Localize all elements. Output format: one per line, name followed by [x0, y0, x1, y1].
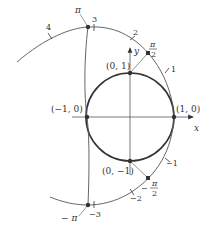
point-0-neg1 — [128, 159, 132, 163]
label-neg-pi: − π — [61, 213, 78, 223]
point-1-0 — [172, 115, 176, 119]
point-neg1-0 — [85, 115, 89, 119]
label-pi-half-num: π — [149, 40, 156, 49]
leader-pi — [80, 14, 88, 27]
label-neg1-0: (−1, 0) — [51, 104, 83, 114]
point-neg-pi — [86, 203, 90, 207]
x-axis-label: x — [194, 123, 199, 133]
point-pi-half — [146, 51, 150, 55]
tick-label-4: 4 — [46, 23, 51, 32]
point-0-1 — [128, 71, 132, 75]
wrapping-function-diagram: x y (1, 0) (0, 1) (−1, 0) (0, −1) 1 2 3 … — [0, 0, 210, 235]
label-neg-pi-half-den: 2 — [152, 189, 157, 198]
tick-label-1: 1 — [171, 65, 176, 74]
tick-label-neg2: −2 — [130, 194, 142, 203]
tick-label-neg3: −3 — [89, 210, 101, 219]
tick-label-3: 3 — [92, 15, 97, 24]
label-1-0: (1, 0) — [176, 104, 200, 114]
tick-label-2: 2 — [133, 28, 138, 37]
label-0-1: (0, 1) — [106, 61, 130, 71]
point-pi — [86, 25, 90, 29]
label-neg-pi-half-num: π — [151, 179, 158, 188]
tick-label-neg1: −1 — [166, 159, 178, 168]
label-pi-half-den: 2 — [151, 50, 156, 59]
y-axis-label: y — [133, 46, 140, 56]
tick-1 — [165, 68, 169, 73]
label-pi: π — [74, 5, 82, 15]
point-neg-pi-half — [146, 176, 150, 180]
connector-pi-half — [130, 53, 148, 73]
label-0-neg1: (0, −1) — [102, 166, 134, 176]
label-neg-pi-half-sign: − — [141, 184, 148, 193]
tick-4 — [48, 33, 52, 39]
